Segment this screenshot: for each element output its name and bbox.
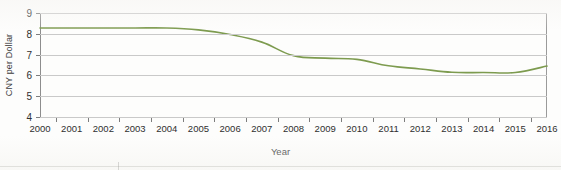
x-tick-mark-0	[56, 118, 57, 122]
x-tick-mark-8	[309, 118, 310, 122]
y-tick-label-8: 8	[16, 28, 32, 39]
x-tick-mark-2	[119, 118, 120, 122]
x-tick-mark-1	[88, 118, 89, 122]
y-tick-mark-5	[36, 96, 40, 97]
y-axis-title-text: CNY per Dollar	[4, 34, 14, 96]
x-tick-mark-7	[278, 118, 279, 122]
x-tick-mark-3	[151, 118, 152, 122]
gridline-y-9	[40, 13, 547, 14]
x-tick-label-2011: 2011	[378, 123, 398, 134]
x-tick-label-2013: 2013	[441, 123, 462, 134]
x-tick-label-2012: 2012	[410, 123, 431, 134]
x-tick-label-2016: 2016	[536, 123, 557, 134]
line-series-cny-per-dollar	[40, 13, 547, 117]
x-tick-label-2004: 2004	[156, 123, 177, 134]
x-tick-label-2005: 2005	[188, 123, 209, 134]
scan-artifact-line	[0, 166, 561, 167]
x-tick-mark-6	[246, 118, 247, 122]
x-tick-mark-9	[341, 118, 342, 122]
x-tick-label-2010: 2010	[346, 123, 367, 134]
x-tick-mark-15	[531, 118, 532, 122]
y-tick-label-5: 5	[16, 91, 32, 102]
x-tick-mark-11	[404, 118, 405, 122]
x-axis: 2000200120022003200420052006200720082009…	[40, 118, 547, 138]
y-tick-mark-7	[36, 55, 40, 56]
gridline-y-5	[40, 96, 547, 97]
x-tick-label-2008: 2008	[283, 123, 304, 134]
y-tick-label-9: 9	[16, 8, 32, 19]
x-tick-label-2001: 2001	[61, 123, 82, 134]
x-tick-mark-10	[373, 118, 374, 122]
x-tick-label-2006: 2006	[220, 123, 241, 134]
x-tick-label-2007: 2007	[251, 123, 272, 134]
y-tick-label-6: 6	[16, 70, 32, 81]
x-axis-title: Year	[0, 146, 561, 157]
x-tick-label-2009: 2009	[315, 123, 336, 134]
y-tick-label-4: 4	[16, 112, 32, 123]
chart-figure: CNY per Dollar 456789 200020012002200320…	[0, 0, 561, 170]
x-tick-label-2014: 2014	[473, 123, 494, 134]
x-tick-mark-13	[468, 118, 469, 122]
x-tick-label-2002: 2002	[93, 123, 114, 134]
y-tick-mark-8	[36, 34, 40, 35]
x-tick-label-2015: 2015	[505, 123, 526, 134]
y-tick-label-7: 7	[16, 49, 32, 60]
x-tick-label-2003: 2003	[124, 123, 145, 134]
x-tick-mark-12	[436, 118, 437, 122]
y-tick-mark-9	[36, 13, 40, 14]
y-tick-mark-6	[36, 75, 40, 76]
x-tick-label-2000: 2000	[29, 123, 50, 134]
x-tick-mark-5	[214, 118, 215, 122]
x-tick-mark-14	[499, 118, 500, 122]
gridline-y-8	[40, 34, 547, 35]
gridline-y-6	[40, 75, 547, 76]
gridline-y-7	[40, 55, 547, 56]
y-axis-tick-labels: 456789	[14, 0, 32, 130]
scan-artifact-tick	[118, 162, 119, 170]
x-tick-mark-4	[183, 118, 184, 122]
plot-area	[40, 13, 547, 117]
